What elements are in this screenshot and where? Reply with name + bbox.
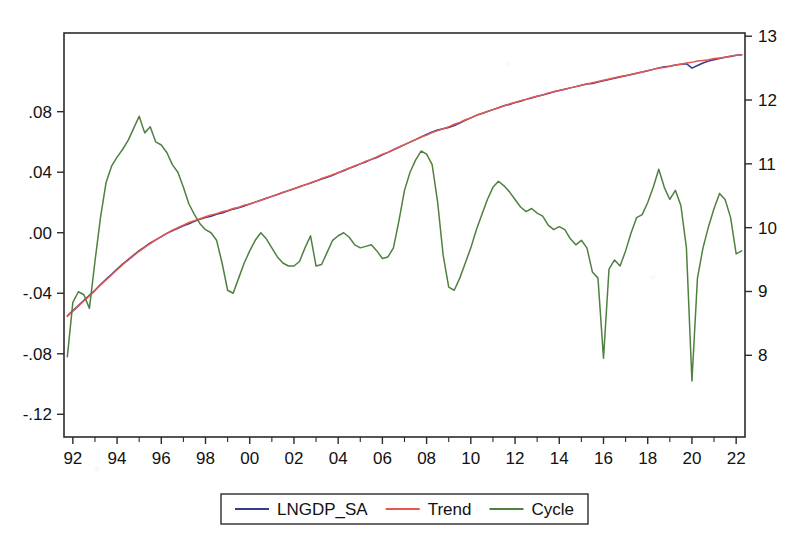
x-axis-tick-label: 22 (727, 449, 746, 468)
y-axis-left-tick-label: .04 (28, 163, 52, 182)
series-line-trend (67, 55, 741, 317)
x-axis-tick-label: 98 (196, 449, 215, 468)
x-axis-tick-label: 08 (417, 449, 436, 468)
series-line-lngdp-sa (67, 55, 741, 316)
y-axis-right-tick-label: 11 (758, 155, 776, 174)
x-axis-tick-label: 14 (550, 449, 569, 468)
legend-item-label: Cycle (531, 500, 574, 519)
x-axis-tick-label: 04 (329, 449, 348, 468)
y-axis-left-tick-label: .08 (28, 103, 52, 122)
y-axis-right-tick-label: 8 (758, 346, 767, 365)
x-axis-tick-label: 12 (506, 449, 525, 468)
y-axis-right-tick-label: 9 (758, 282, 767, 301)
y-axis-left-tick-label: -.08 (23, 345, 52, 364)
y-axis-left-tick-label: -.12 (23, 405, 52, 424)
x-axis-tick-label: 20 (682, 449, 701, 468)
x-axis-tick-label: 02 (284, 449, 303, 468)
legend-item-label: Trend (428, 500, 472, 519)
x-axis-tick-label: 92 (63, 449, 82, 468)
series-line-cycle (67, 116, 741, 381)
x-axis-tick-label: 10 (461, 449, 480, 468)
x-axis-tick-label: 96 (152, 449, 171, 468)
y-axis-left-tick-label: .00 (28, 224, 52, 243)
plot-frame (64, 33, 745, 437)
x-axis-tick-label: 18 (638, 449, 657, 468)
hodrick-prescott-filter-chart: 92949698000204060810121416182022.08.04.0… (0, 0, 806, 533)
x-axis-tick-label: 06 (373, 449, 392, 468)
x-axis-tick-label: 94 (108, 449, 127, 468)
x-axis-tick-label: 16 (594, 449, 613, 468)
y-axis-right-tick-label: 12 (758, 91, 777, 110)
y-axis-left-tick-label: -.04 (23, 284, 52, 303)
y-axis-right-tick-label: 13 (758, 27, 777, 46)
chart-container: 92949698000204060810121416182022.08.04.0… (0, 0, 806, 533)
y-axis-right-tick-label: 10 (758, 219, 777, 238)
legend-item-label: LNGDP_SA (277, 500, 368, 519)
x-axis-tick-label: 00 (240, 449, 259, 468)
